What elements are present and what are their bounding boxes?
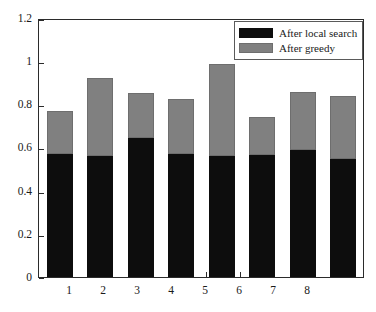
bar-segment-greedy — [87, 78, 113, 156]
bar-stack-6 — [249, 117, 275, 277]
legend-label: After local search — [279, 28, 357, 39]
x-axis-tick-label: 2 — [88, 285, 118, 297]
bar-segment-greedy — [128, 93, 154, 138]
x-axis-tick-label: 7 — [258, 285, 288, 297]
bar-segment-greedy — [209, 64, 235, 156]
legend-label: After greedy — [279, 43, 335, 54]
bar-segment-greedy — [47, 111, 73, 154]
bar-stack-8 — [330, 96, 356, 277]
chart-legend: After local search After greedy — [234, 21, 363, 60]
bar-stack-5 — [209, 64, 235, 277]
y-axis-tick-label: 1.2 — [0, 13, 32, 25]
bar-segment-local-search — [168, 154, 194, 277]
x-axis-tick-label: 5 — [190, 285, 220, 297]
bar-segment-local-search — [87, 156, 113, 277]
bar-segment-greedy — [330, 96, 356, 159]
y-axis-tick-label: 1 — [0, 56, 32, 68]
bar-segment-local-search — [330, 159, 356, 277]
bar-segment-local-search — [290, 150, 316, 277]
y-axis-tick-label: 0.6 — [0, 142, 32, 154]
y-tick-mark — [39, 278, 44, 279]
legend-item-greedy: After greedy — [239, 41, 358, 55]
legend-swatch-black-icon — [239, 28, 273, 38]
y-axis-tick-label: 0.2 — [0, 229, 32, 241]
x-axis-tick-label: 4 — [156, 285, 186, 297]
bar-segment-greedy — [249, 117, 275, 155]
bar-segment-greedy — [168, 99, 194, 153]
bar-stack-3 — [128, 93, 154, 277]
bar-stack-1 — [47, 111, 73, 277]
x-axis-tick-label: 1 — [54, 285, 84, 297]
x-axis-tick-label: 8 — [292, 285, 322, 297]
bar-segment-local-search — [249, 155, 275, 277]
y-axis-tick-label: 0 — [0, 272, 32, 284]
x-axis-tick-label: 3 — [122, 285, 152, 297]
y-axis-tick-label: 0.8 — [0, 99, 32, 111]
bar-segment-local-search — [128, 138, 154, 277]
bar-stack-2 — [87, 78, 113, 277]
legend-swatch-gray-icon — [239, 43, 273, 53]
bar-segment-greedy — [290, 92, 316, 150]
bar-chart-figure: 1.2 1 0.8 0.6 0.4 0.2 0 1 2 3 4 5 6 7 8 — [0, 0, 376, 312]
bar-stack-4 — [168, 99, 194, 277]
y-axis-tick-label: 0.4 — [0, 186, 32, 198]
bar-segment-local-search — [47, 154, 73, 277]
x-axis-tick-label: 6 — [224, 285, 254, 297]
bar-stack-7 — [290, 92, 316, 277]
bar-segment-local-search — [209, 156, 235, 277]
legend-item-local-search: After local search — [239, 26, 358, 40]
